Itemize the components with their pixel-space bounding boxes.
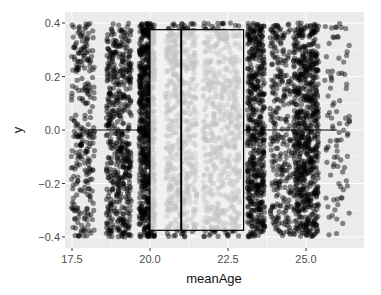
data-point [300, 135, 305, 140]
data-point [270, 203, 275, 208]
data-point [106, 39, 111, 44]
data-point [75, 122, 80, 127]
data-point [261, 138, 266, 143]
data-point [299, 44, 304, 49]
data-point [305, 104, 310, 109]
data-point [116, 188, 121, 193]
data-point [332, 35, 337, 40]
data-point [137, 123, 142, 128]
data-point [310, 61, 315, 66]
data-point [285, 219, 290, 224]
data-point [313, 85, 318, 90]
data-point [143, 181, 148, 186]
data-point [105, 65, 110, 70]
data-point [207, 233, 212, 238]
data-point [126, 123, 131, 128]
data-point [116, 23, 121, 28]
data-point [261, 227, 266, 232]
data-point [304, 114, 309, 119]
data-point [275, 192, 280, 197]
data-point [248, 174, 253, 179]
data-point [171, 21, 176, 26]
data-point [111, 102, 116, 107]
data-point [306, 133, 311, 138]
data-point [88, 194, 93, 199]
data-point [282, 33, 287, 38]
data-point [274, 172, 279, 177]
data-point [291, 63, 296, 68]
data-point [295, 223, 300, 228]
data-point [78, 47, 83, 52]
data-point [310, 113, 315, 118]
data-point [141, 28, 146, 33]
data-point [260, 29, 265, 34]
data-point [140, 201, 145, 206]
data-point [283, 62, 288, 67]
data-point [250, 47, 255, 52]
data-point [126, 193, 131, 198]
data-point [112, 182, 117, 187]
data-point [341, 59, 346, 64]
data-point [313, 50, 318, 55]
data-point [228, 21, 233, 26]
data-point [70, 186, 75, 191]
data-point [248, 79, 253, 84]
data-point [107, 47, 112, 52]
data-point [323, 195, 328, 200]
data-point [292, 43, 297, 48]
data-point [115, 227, 120, 232]
data-point [91, 153, 96, 158]
data-point [306, 142, 311, 147]
data-point [123, 158, 128, 163]
data-point [122, 183, 127, 188]
data-point [90, 217, 95, 222]
data-point [288, 184, 293, 189]
data-point [128, 233, 133, 238]
data-point [72, 57, 77, 62]
data-point [338, 157, 343, 162]
data-point [316, 59, 321, 64]
data-point [246, 113, 251, 118]
data-point [253, 109, 258, 114]
data-point [105, 74, 110, 79]
data-point [330, 103, 335, 108]
data-point [86, 122, 91, 127]
data-point [272, 23, 277, 28]
data-point [309, 27, 314, 32]
data-point [246, 96, 251, 101]
data-point [137, 213, 142, 218]
data-point [329, 115, 334, 120]
data-point [261, 48, 266, 53]
data-point [91, 208, 96, 213]
data-point [246, 56, 251, 61]
data-point [261, 215, 266, 220]
data-point [91, 130, 96, 135]
data-point [279, 173, 284, 178]
data-point [115, 119, 120, 124]
data-point [249, 117, 254, 122]
data-point [109, 131, 114, 136]
y-axis: 0.40.20.0−0.2−0.4 [38, 17, 65, 243]
data-point [73, 150, 78, 155]
data-point [251, 161, 256, 166]
y-tick-label: −0.2 [38, 178, 60, 190]
data-point [256, 187, 261, 192]
data-point [298, 107, 303, 112]
data-point [115, 155, 120, 160]
data-point [271, 167, 276, 172]
data-point [323, 24, 328, 29]
data-point [216, 234, 221, 239]
data-point [112, 62, 117, 67]
data-point [314, 144, 319, 149]
data-point [334, 138, 339, 143]
data-point [325, 69, 330, 74]
data-point [90, 167, 95, 172]
data-point [112, 74, 117, 79]
data-point [73, 85, 78, 90]
data-point [314, 222, 319, 227]
data-point [314, 123, 319, 128]
data-point [336, 56, 341, 61]
data-point [138, 232, 143, 237]
data-point [116, 234, 121, 239]
data-point [122, 105, 127, 110]
